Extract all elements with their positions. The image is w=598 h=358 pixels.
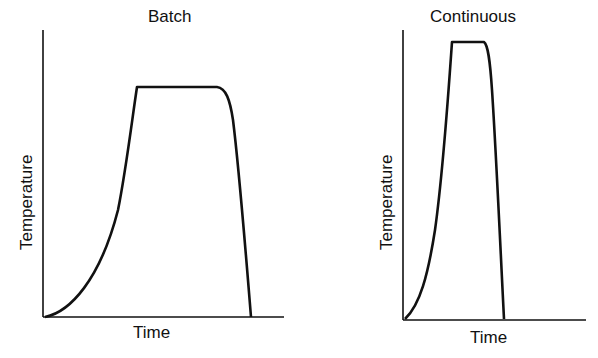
batch-curve xyxy=(45,87,251,317)
batch-x-label: Time xyxy=(133,323,170,343)
continuous-y-label: Temperature xyxy=(377,155,397,250)
continuous-x-label: Time xyxy=(470,328,507,348)
continuous-chart xyxy=(403,30,586,320)
charts-canvas xyxy=(0,0,598,358)
continuous-title: Continuous xyxy=(430,7,516,27)
batch-title: Batch xyxy=(148,7,191,27)
batch-chart xyxy=(43,30,284,317)
batch-y-label: Temperature xyxy=(17,155,37,250)
continuous-curve xyxy=(405,42,504,319)
